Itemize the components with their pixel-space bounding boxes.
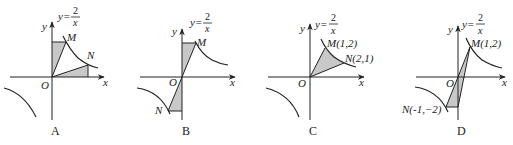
function-numerator: 2	[478, 12, 483, 23]
point-n-label: N(2,1)	[344, 52, 374, 65]
point-n-label: N	[154, 104, 163, 116]
panel-caption: A	[51, 124, 60, 138]
function-lhs: y=	[461, 18, 474, 30]
panel-d: y x O y= 2 x M(1,2) N(-1,−2) D	[401, 12, 507, 138]
origin-label: O	[446, 77, 454, 89]
diagram-canvas: y x O y= 2 x M N A y x O y= 2 x M N B	[0, 0, 513, 145]
point-m-label: M(1,2)	[326, 37, 358, 50]
point-m-label: M	[66, 31, 77, 43]
point-n-label: N	[86, 49, 95, 61]
origin-label: O	[169, 76, 177, 88]
y-axis-label: y	[447, 23, 453, 35]
y-axis-label: y	[299, 22, 305, 34]
function-numerator: 2	[205, 11, 210, 22]
panel-caption: C	[309, 124, 317, 138]
panel-caption: D	[457, 124, 466, 138]
function-denominator: x	[330, 25, 336, 36]
y-axis-label: y	[171, 25, 177, 37]
hyperbola-q3	[266, 88, 299, 117]
function-numerator: 2	[331, 12, 336, 23]
shaded-region-omn	[310, 48, 344, 77]
function-lhs: y=	[57, 10, 70, 22]
origin-label: O	[298, 77, 306, 89]
panel-b: y x O y= 2 x M N B	[137, 11, 235, 138]
x-axis-label: x	[102, 76, 108, 88]
function-lhs: y=	[189, 16, 202, 28]
x-axis-label: x	[229, 76, 235, 88]
x-axis-label: x	[358, 76, 364, 88]
function-lhs: y=	[314, 18, 327, 30]
point-n-label: N(-1,−2)	[401, 103, 442, 116]
function-denominator: x	[204, 23, 210, 34]
hyperbola-q3	[137, 88, 170, 114]
y-axis-label: y	[41, 20, 47, 32]
function-denominator: x	[477, 25, 483, 36]
origin-label: O	[41, 79, 49, 91]
function-numerator: 2	[73, 5, 78, 16]
point-m-label: M(1,2)	[470, 37, 502, 50]
panel-a: y x O y= 2 x M N A	[4, 5, 108, 138]
panel-c: y x O y= 2 x M(1,2) N(2,1) C	[266, 12, 374, 138]
hyperbola-q3	[4, 88, 36, 117]
function-denominator: x	[72, 17, 78, 28]
panel-caption: B	[182, 124, 190, 138]
x-axis-label: x	[501, 76, 507, 88]
point-m-label: M	[196, 36, 207, 48]
